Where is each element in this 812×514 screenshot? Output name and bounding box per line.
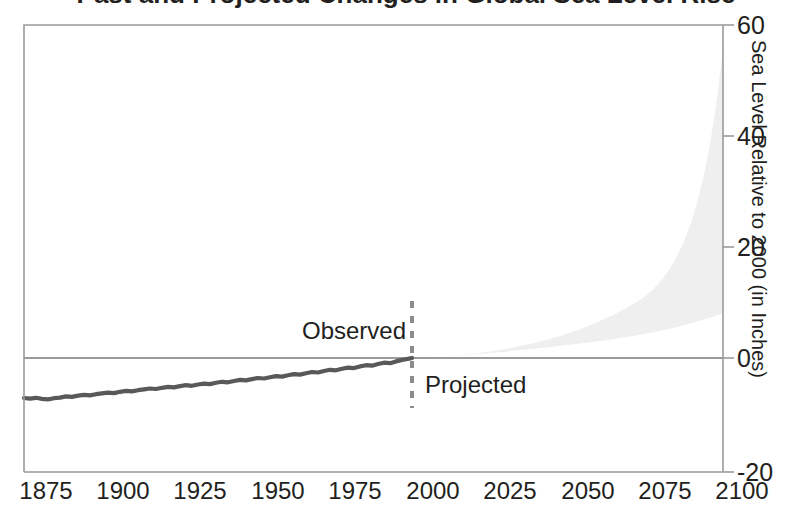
y-tick-label-60: 60 [737,13,765,38]
x-tick-label-2075: 2075 [638,479,691,503]
y-axis-ticks [723,25,734,472]
x-tick-label-2000: 2000 [406,479,459,503]
y-axis-title: Sea Level Relative to 2000 (in Inches) [740,40,770,460]
x-tick-label-2050: 2050 [561,479,614,503]
x-tick-label-1900: 1900 [96,479,149,503]
sea-level-chart: Past and Projected Changes in Global Sea… [0,0,812,514]
observed-line [24,358,412,399]
x-tick-label-1975: 1975 [328,479,381,503]
x-tick-label-1875: 1875 [19,479,72,503]
projection-band [412,46,723,358]
observed-label: Observed [302,319,406,343]
projected-label: Projected [425,373,526,397]
x-tick-label-1925: 1925 [173,479,226,503]
x-tick-label-1950: 1950 [251,479,304,503]
plot-frame [24,25,723,472]
x-tick-label-2025: 2025 [483,479,536,503]
plot-area [0,0,812,514]
x-tick-label-2100: 2100 [715,479,768,503]
